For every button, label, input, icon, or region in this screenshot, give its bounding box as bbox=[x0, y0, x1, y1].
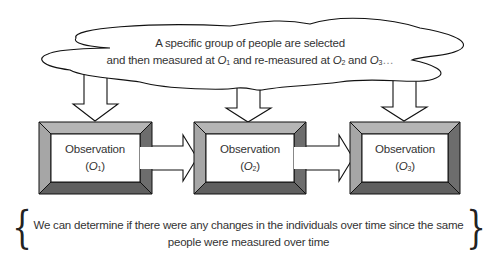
o-subscript: 3 bbox=[408, 165, 412, 172]
observation-title: Observation bbox=[365, 141, 445, 158]
observation-symbol: (O2) bbox=[210, 158, 290, 177]
cloud-line-2: and then measured at O1 and re-measured … bbox=[100, 52, 400, 71]
arrow-shaft-cover-2 bbox=[294, 147, 307, 169]
arrow-shaft-cover-1 bbox=[140, 147, 153, 169]
o-symbol: O bbox=[244, 160, 253, 172]
text-segment: and re-measured at bbox=[230, 54, 333, 66]
observation-title: Observation bbox=[55, 141, 135, 158]
cloud-description: A specific group of people are selected … bbox=[100, 35, 400, 71]
conclusion-line-2: people were measured over time bbox=[30, 234, 467, 251]
down-arrow-2 bbox=[226, 86, 271, 122]
o-symbol: O bbox=[89, 160, 98, 172]
o-subscript: 2 bbox=[253, 165, 257, 172]
text-segment: and then measured at bbox=[107, 54, 218, 66]
o-symbol: O bbox=[399, 160, 408, 172]
conclusion-line-1: We can determine if there were any chang… bbox=[30, 217, 467, 234]
down-arrow-1 bbox=[73, 73, 118, 121]
observation-symbol: (O1) bbox=[55, 158, 135, 177]
cloud-line-1: A specific group of people are selected bbox=[100, 35, 400, 52]
o-subscript: 1 bbox=[98, 165, 102, 172]
conclusion-text: We can determine if there were any chang… bbox=[30, 217, 467, 251]
ellipsis: … bbox=[382, 54, 393, 66]
o1-symbol: O bbox=[217, 54, 226, 66]
open-brace: { bbox=[12, 206, 32, 250]
observation-box-3: Observation (O3) bbox=[365, 141, 445, 177]
close-brace: } bbox=[466, 206, 486, 250]
text-segment: and bbox=[345, 54, 370, 66]
observation-title: Observation bbox=[210, 141, 290, 158]
observation-symbol: (O3) bbox=[365, 158, 445, 177]
down-arrow-3 bbox=[382, 80, 427, 121]
observation-box-1: Observation (O1) bbox=[55, 141, 135, 177]
observation-box-2: Observation (O2) bbox=[210, 141, 290, 177]
